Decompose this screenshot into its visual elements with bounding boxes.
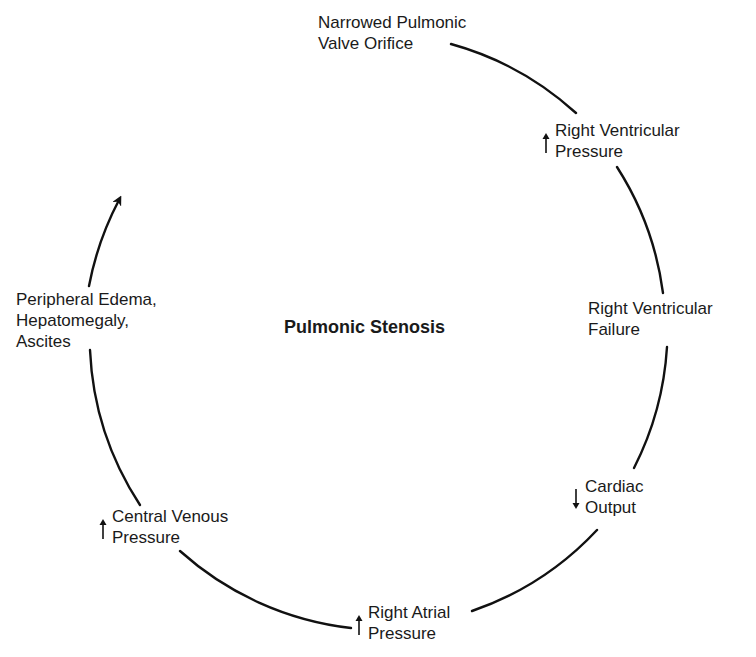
increase-arrow-icon [540, 120, 552, 162]
node-label-line: Narrowed Pulmonic [318, 12, 466, 33]
node-label-line: Central Venous [112, 506, 228, 527]
node-label-line: Pressure [555, 141, 680, 162]
node-right-atrial-pressure: Right Atrial Pressure [353, 602, 450, 644]
arc-rv-failure-to-cardiac-output [634, 347, 667, 468]
node-label-line: Pressure [368, 623, 450, 644]
increase-arrow-icon [97, 506, 109, 548]
decrease-arrow-icon [570, 476, 582, 518]
arc-cv-pressure-to-edema [90, 350, 140, 505]
node-label-line: Ascites [16, 331, 157, 352]
node-right-ventricular-failure: Right Ventricular Failure [588, 298, 713, 340]
node-label-line: Right Ventricular [555, 120, 680, 141]
arc-cardiac-output-to-ra-pressure [472, 530, 597, 611]
node-label-line: Failure [588, 319, 713, 340]
node-right-ventricular-pressure: Right Ventricular Pressure [540, 120, 680, 162]
node-label-line: Hepatomegaly, [16, 310, 157, 331]
node-label-line: Peripheral Edema, [16, 289, 157, 310]
arc-rv-pressure-to-rv-failure [617, 167, 663, 293]
node-central-venous-pressure: Central Venous Pressure [97, 506, 228, 548]
node-label-line: Output [585, 497, 644, 518]
arc-valve-to-rv-pressure [451, 44, 576, 113]
node-peripheral-edema: Peripheral Edema, Hepatomegaly, Ascites [16, 289, 157, 352]
node-narrowed-valve-orifice: Narrowed Pulmonic Valve Orifice [318, 12, 466, 54]
node-label-line: Pressure [112, 527, 228, 548]
node-label-line: Right Atrial [368, 602, 450, 623]
increase-arrow-icon [353, 602, 365, 644]
node-cardiac-output: Cardiac Output [570, 476, 644, 518]
arc-edema-to-top-arrow [89, 200, 119, 286]
node-label-line: Cardiac [585, 476, 644, 497]
diagram-title: Pulmonic Stenosis [284, 317, 445, 338]
arc-ra-pressure-to-cv-pressure [180, 551, 351, 628]
node-label-line: Valve Orifice [318, 33, 466, 54]
node-label-line: Right Ventricular [588, 298, 713, 319]
